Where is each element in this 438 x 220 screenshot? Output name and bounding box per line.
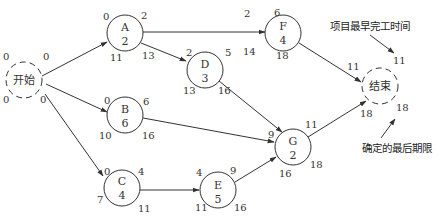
node-b-lf: 16: [142, 130, 155, 141]
node-b-ef: 6: [143, 96, 149, 107]
node-f-lf: 18: [276, 50, 289, 61]
node-d-ls: 13: [183, 85, 196, 96]
node-end-ls: 18: [360, 108, 373, 119]
node-a-lf: 13: [142, 50, 155, 61]
node-f-ls: 14: [243, 46, 256, 57]
node-g-label: G: [289, 135, 298, 148]
node-start-ef: 0: [43, 51, 49, 62]
node-e-lf: 16: [234, 202, 247, 213]
node-end-ef: 11: [393, 55, 406, 66]
node-f-duration: 4: [280, 34, 287, 47]
node-f: F 4 2 6 14 18: [243, 7, 301, 61]
node-f-label: F: [279, 20, 287, 33]
node-a-ef: 2: [141, 10, 147, 21]
node-c-duration: 4: [119, 189, 126, 202]
node-f-ef: 6: [274, 7, 280, 18]
network-diagram: 开始 0 0 0 0 A 2 0 2 11 13 B 6 0 6 10 16 C…: [0, 0, 438, 220]
annotation-arrow-top: [370, 35, 394, 53]
node-end: 结束 11 11 18 18: [347, 55, 409, 119]
node-e: E 5 4 9 11 16: [195, 165, 247, 213]
node-a-label: A: [120, 21, 130, 34]
node-c-ls: 7: [97, 194, 103, 205]
node-d-es: 2: [186, 47, 192, 58]
node-start-label: 开始: [13, 73, 35, 87]
node-f-es: 2: [244, 8, 250, 19]
node-d: D 3 2 5 13 16: [183, 47, 231, 96]
node-start-lf: 0: [40, 94, 46, 105]
node-a-ls: 11: [110, 52, 123, 63]
node-a-duration: 2: [122, 35, 129, 48]
node-c-ef: 4: [138, 166, 144, 177]
node-start-es: 0: [3, 51, 9, 62]
node-e-ls: 11: [195, 202, 208, 213]
node-b: B 6 0 6 10 16: [99, 95, 155, 141]
node-b-es: 0: [104, 95, 110, 106]
node-b-label: B: [121, 103, 129, 116]
edge-b-g: [143, 118, 274, 142]
node-d-ef: 5: [225, 47, 231, 58]
node-g: G 2 9 11 16 18: [268, 119, 323, 179]
node-end-lf: 18: [396, 102, 409, 113]
node-e-label: E: [214, 179, 222, 192]
node-d-lf: 16: [218, 85, 231, 96]
node-start: 开始 0 0 0 0: [3, 51, 49, 105]
edge-start-a: [42, 42, 107, 76]
node-a-es: 0: [103, 11, 109, 22]
node-g-duration: 2: [290, 149, 297, 162]
node-b-ls: 10: [99, 130, 112, 141]
node-a: A 2 0 2 11 13: [103, 10, 155, 63]
node-g-lf: 18: [310, 159, 323, 170]
node-d-duration: 3: [202, 72, 209, 85]
node-g-ef: 11: [305, 119, 318, 130]
node-e-ef: 9: [230, 165, 236, 176]
node-g-es: 9: [268, 129, 274, 140]
annotation-deadline: 确定的最后期限: [362, 142, 433, 154]
node-c-es: 0: [104, 166, 110, 177]
node-end-label: 结束: [369, 80, 391, 93]
node-b-duration: 6: [122, 117, 129, 130]
edge-e-g: [235, 157, 276, 182]
node-c-lf: 11: [138, 203, 151, 214]
node-g-ls: 16: [279, 168, 292, 179]
annotation-earliest-finish: 项目最早完工时间: [330, 20, 410, 32]
annotation-arrow-bottom: [381, 119, 395, 138]
edges: [42, 32, 395, 190]
node-end-es: 11: [347, 61, 360, 72]
node-c-label: C: [118, 175, 126, 188]
node-e-duration: 5: [215, 193, 222, 206]
node-start-ls: 0: [3, 94, 9, 105]
node-d-label: D: [201, 58, 210, 71]
node-e-es: 4: [196, 167, 202, 178]
